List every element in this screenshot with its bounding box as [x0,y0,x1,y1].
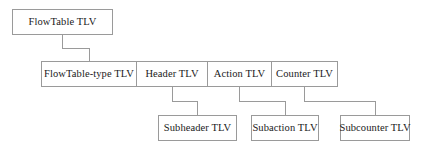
node-flowtable-tlv: FlowTable TLV [12,9,113,35]
node-subheader-tlv-label: Subheader TLV [160,123,236,134]
node-action-tlv-label: Action TLV [210,69,269,80]
node-subcounter-tlv-label: Subcounter TLV [335,123,414,134]
node-counter-tlv-label: Counter TLV [272,69,337,80]
node-flowtable-type-tlv: FlowTable-type TLV [41,61,137,87]
node-counter-tlv: Counter TLV [271,61,338,87]
connector-action-to-subaction [240,87,286,115]
node-subaction-tlv: Subaction TLV [251,115,319,141]
connector-flowtable-to-flowtable-type [63,35,90,61]
node-header-tlv-label: Header TLV [141,69,202,80]
node-subaction-tlv-label: Subaction TLV [248,123,321,134]
node-flowtable-type-tlv-label: FlowTable-type TLV [40,69,138,80]
node-flowtable-tlv-label: FlowTable TLV [25,17,101,28]
node-subcounter-tlv: Subcounter TLV [340,115,410,141]
node-header-tlv: Header TLV [136,61,208,87]
node-subheader-tlv: Subheader TLV [158,115,237,141]
connector-header-to-subheader [173,87,198,115]
node-action-tlv: Action TLV [207,61,272,87]
tlv-hierarchy-diagram: FlowTable TLV FlowTable-type TLV Header … [0,0,437,154]
connector-counter-to-subcounter [305,87,376,115]
